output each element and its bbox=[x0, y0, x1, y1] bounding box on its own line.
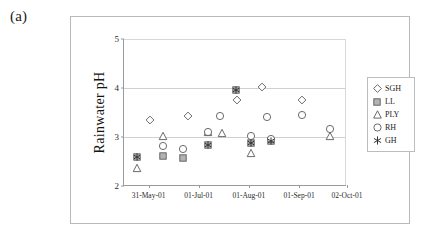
data-point-rh bbox=[159, 142, 168, 151]
data-point-rh bbox=[326, 124, 335, 133]
data-point-ply bbox=[159, 131, 168, 140]
triangle-icon bbox=[372, 110, 382, 120]
y-axis-tick-mark bbox=[121, 88, 124, 89]
x-axis-tick-mark bbox=[347, 185, 348, 188]
data-point-rh bbox=[179, 144, 188, 153]
data-point-gh bbox=[247, 139, 255, 147]
chart-legend: SGHLLPLYRHGH bbox=[367, 77, 415, 152]
data-point-ply bbox=[247, 148, 256, 157]
legend-item-sgh[interactable]: SGH bbox=[372, 82, 411, 95]
legend-item-label: LL bbox=[385, 98, 395, 106]
y-axis-tick-mark bbox=[121, 137, 124, 138]
legend-item-label: RH bbox=[385, 124, 396, 132]
data-point-ll bbox=[159, 152, 167, 160]
x-axis-tick-label: 01-Jul-01 bbox=[184, 191, 213, 200]
y-axis-tick-mark bbox=[121, 186, 124, 187]
data-point-sgh bbox=[145, 115, 154, 124]
plot-top-border bbox=[124, 39, 346, 40]
data-point-ll bbox=[179, 154, 187, 162]
legend-item-gh[interactable]: GH bbox=[372, 134, 411, 147]
plot-area: 2345 31-May-0101-Jul-0101-Aug-0101-Sep-0… bbox=[123, 39, 346, 186]
data-point-gh bbox=[267, 137, 275, 145]
data-point-sgh bbox=[183, 111, 192, 120]
chart-frame: Rainwater pH 2345 31-May-0101-Jul-0101-A… bbox=[70, 16, 410, 224]
x-axis-tick-mark bbox=[199, 185, 200, 188]
y-axis-tick-label: 2 bbox=[115, 181, 120, 191]
x-axis-tick-label: 01-Aug-01 bbox=[232, 191, 265, 200]
x-axis-tick-mark bbox=[299, 185, 300, 188]
diamond-icon bbox=[372, 84, 382, 94]
x-axis-tick-label: 31-May-01 bbox=[132, 191, 166, 200]
data-point-gh bbox=[232, 86, 240, 94]
y-axis-tick-label: 5 bbox=[115, 34, 120, 44]
legend-item-label: GH bbox=[385, 137, 397, 145]
data-point-rh bbox=[203, 127, 212, 136]
y-axis-tick-label: 4 bbox=[115, 83, 120, 93]
data-point-gh bbox=[133, 153, 141, 161]
data-point-sgh bbox=[258, 83, 267, 92]
data-point-rh bbox=[262, 112, 271, 121]
x-axis-tick-mark bbox=[249, 185, 250, 188]
y-axis-tick-label: 3 bbox=[115, 132, 120, 142]
data-point-gh bbox=[204, 141, 212, 149]
asterisk-icon bbox=[372, 136, 382, 146]
square-icon bbox=[372, 97, 382, 107]
legend-item-label: PLY bbox=[385, 111, 399, 119]
y-axis-tick-mark bbox=[121, 39, 124, 40]
legend-item-rh[interactable]: RH bbox=[372, 121, 411, 134]
data-point-ply bbox=[133, 164, 142, 173]
data-point-rh bbox=[215, 112, 224, 121]
legend-item-ll[interactable]: LL bbox=[372, 95, 411, 108]
circle-icon bbox=[372, 123, 382, 133]
data-point-sgh bbox=[232, 95, 241, 104]
gridline-3 bbox=[124, 137, 346, 138]
data-point-ply bbox=[218, 128, 227, 137]
legend-item-label: SGH bbox=[385, 85, 401, 93]
panel-label: (a) bbox=[10, 8, 27, 25]
legend-item-ply[interactable]: PLY bbox=[372, 108, 411, 121]
x-axis-tick-label: 02-Oct-01 bbox=[332, 191, 363, 200]
data-point-sgh bbox=[298, 95, 307, 104]
y-axis-title: Rainwater pH bbox=[93, 39, 107, 186]
x-axis-tick-label: 01-Sep-01 bbox=[283, 191, 314, 200]
data-point-rh bbox=[298, 111, 307, 120]
x-axis-tick-mark bbox=[149, 185, 150, 188]
